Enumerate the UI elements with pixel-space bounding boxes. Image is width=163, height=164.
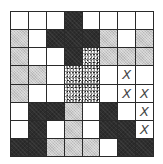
grid-cell-r7-c7[interactable] (136, 139, 153, 156)
grid-cell-r3-c2[interactable] (47, 66, 64, 83)
grid-cell-r5-c4[interactable] (83, 103, 100, 120)
grid-cell-r3-c0[interactable] (11, 66, 28, 83)
grid-cell-r6-c5[interactable] (100, 121, 117, 138)
grid-cell-r2-c7[interactable] (136, 48, 153, 65)
grid-cell-r0-c7[interactable] (136, 12, 153, 29)
grid-cell-r4-c4[interactable] (83, 85, 100, 102)
grid-cell-r0-c2[interactable] (47, 12, 64, 29)
grid-cell-r5-c3[interactable] (65, 103, 82, 120)
puzzle-grid: XXXXX (10, 11, 154, 157)
grid-cell-r5-c6[interactable] (118, 103, 135, 120)
grid-cell-r6-c6[interactable] (118, 121, 135, 138)
grid-cell-r0-c0[interactable] (11, 12, 28, 29)
grid-cell-r4-c1[interactable] (29, 85, 46, 102)
grid-cell-r1-c0[interactable] (11, 30, 28, 47)
grid-cell-r6-c4[interactable] (83, 121, 100, 138)
grid-cell-r7-c6[interactable] (118, 139, 135, 156)
grid-cell-r3-c4[interactable] (83, 66, 100, 83)
grid-cell-r1-c7[interactable] (136, 30, 153, 47)
grid-cell-r4-c3[interactable] (65, 85, 82, 102)
grid-cell-r1-c5[interactable] (100, 30, 117, 47)
grid-cell-r6-c0[interactable] (11, 121, 28, 138)
grid-cell-r0-c4[interactable] (83, 12, 100, 29)
grid-cell-r3-c5[interactable] (100, 66, 117, 83)
grid-cell-r1-c1[interactable] (29, 30, 46, 47)
grid-cell-r3-c3[interactable] (65, 66, 82, 83)
grid-cell-r7-c2[interactable] (47, 139, 64, 156)
grid-cell-r1-c2[interactable] (47, 30, 64, 47)
grid-cell-r5-c7[interactable]: X (136, 103, 153, 120)
grid-cell-r6-c2[interactable] (47, 121, 64, 138)
grid-cell-r7-c5[interactable] (100, 139, 117, 156)
cross-mark-icon: X (140, 87, 149, 100)
grid-cell-r6-c7[interactable]: X (136, 121, 153, 138)
cross-mark-icon: X (140, 123, 149, 136)
grid-cell-r2-c4[interactable] (83, 48, 100, 65)
grid-cell-r2-c6[interactable] (118, 48, 135, 65)
grid-cell-r7-c0[interactable] (11, 139, 28, 156)
grid-cell-r2-c5[interactable] (100, 48, 117, 65)
grid-cell-r0-c3[interactable] (65, 12, 82, 29)
grid-cell-r0-c6[interactable] (118, 12, 135, 29)
grid-cell-r7-c3[interactable] (65, 139, 82, 156)
grid-cell-r5-c2[interactable] (47, 103, 64, 120)
cross-mark-icon: X (140, 105, 149, 118)
grid-cell-r5-c5[interactable] (100, 103, 117, 120)
grid-cell-r3-c1[interactable] (29, 66, 46, 83)
grid-cell-r6-c1[interactable] (29, 121, 46, 138)
grid-cell-r0-c1[interactable] (29, 12, 46, 29)
grid-cell-r2-c3[interactable] (65, 48, 82, 65)
grid-cell-r7-c4[interactable] (83, 139, 100, 156)
grid-cell-r0-c5[interactable] (100, 12, 117, 29)
grid-cell-r4-c0[interactable] (11, 85, 28, 102)
grid-cell-r2-c2[interactable] (47, 48, 64, 65)
grid-cell-r1-c6[interactable] (118, 30, 135, 47)
grid-cell-r1-c4[interactable] (83, 30, 100, 47)
cross-mark-icon: X (122, 87, 131, 100)
grid-cell-r6-c3[interactable] (65, 121, 82, 138)
grid-cell-r2-c0[interactable] (11, 48, 28, 65)
grid-cell-r5-c0[interactable] (11, 103, 28, 120)
grid-cell-r4-c7[interactable]: X (136, 85, 153, 102)
grid-cell-r5-c1[interactable] (29, 103, 46, 120)
cross-mark-icon: X (122, 68, 131, 81)
grid-cell-r4-c6[interactable]: X (118, 85, 135, 102)
grid-cell-r4-c2[interactable] (47, 85, 64, 102)
grid-cell-r2-c1[interactable] (29, 48, 46, 65)
grid-cell-r1-c3[interactable] (65, 30, 82, 47)
grid-cell-r4-c5[interactable] (100, 85, 117, 102)
grid-cell-r3-c7[interactable] (136, 66, 153, 83)
grid-cell-r3-c6[interactable]: X (118, 66, 135, 83)
grid-cell-r7-c1[interactable] (29, 139, 46, 156)
